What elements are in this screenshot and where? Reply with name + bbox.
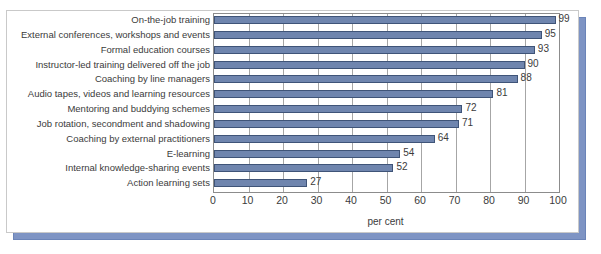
bar-value-label: 71 bbox=[462, 116, 473, 130]
bar-row bbox=[214, 177, 559, 192]
bar bbox=[214, 61, 525, 69]
bar-value-label: 54 bbox=[403, 146, 414, 160]
bar bbox=[214, 46, 535, 54]
chart-card: On-the-job trainingExternal conferences,… bbox=[6, 10, 579, 233]
x-tick-label: 20 bbox=[267, 194, 297, 207]
bar bbox=[214, 105, 462, 113]
bar-row bbox=[214, 103, 559, 118]
bar-row bbox=[214, 118, 559, 133]
bar-value-label: 93 bbox=[538, 42, 549, 56]
bar-value-label: 90 bbox=[528, 57, 539, 71]
chart-figure: On-the-job trainingExternal conferences,… bbox=[0, 0, 601, 254]
bar-value-label: 81 bbox=[496, 86, 507, 100]
bar bbox=[214, 90, 493, 98]
bar-value-label: 27 bbox=[310, 175, 321, 189]
x-tick-label: 10 bbox=[233, 194, 263, 207]
bar bbox=[214, 150, 400, 158]
category-label: Job rotation, secondment and shadowing bbox=[37, 118, 210, 130]
bar-row bbox=[214, 133, 559, 148]
bar bbox=[214, 164, 393, 172]
x-tick-label: 80 bbox=[474, 194, 504, 207]
category-label: Mentoring and buddying schemes bbox=[67, 103, 210, 115]
bar bbox=[214, 120, 459, 128]
bar-row bbox=[214, 29, 559, 44]
x-tick-label: 40 bbox=[336, 194, 366, 207]
category-label: Action learning sets bbox=[127, 177, 210, 189]
bar-row bbox=[214, 14, 559, 29]
bar bbox=[214, 31, 542, 39]
bar bbox=[214, 16, 556, 24]
bar-row bbox=[214, 59, 559, 74]
x-tick-label: 100 bbox=[543, 194, 573, 207]
category-axis-labels: On-the-job trainingExternal conferences,… bbox=[7, 11, 210, 234]
bar-row bbox=[214, 148, 559, 163]
category-label: Coaching by line managers bbox=[95, 73, 210, 85]
bar bbox=[214, 75, 518, 83]
category-label: Instructor-led training delivered off th… bbox=[35, 59, 210, 71]
category-label: Formal education courses bbox=[101, 44, 210, 56]
x-tick-label: 0 bbox=[198, 194, 228, 207]
bar bbox=[214, 135, 435, 143]
bar-row bbox=[214, 44, 559, 59]
category-label: External conferences, workshops and even… bbox=[21, 29, 210, 41]
x-tick-label: 50 bbox=[371, 194, 401, 207]
category-label: Coaching by external practitioners bbox=[66, 133, 210, 145]
x-tick-label: 60 bbox=[405, 194, 435, 207]
bar-value-label: 52 bbox=[396, 160, 407, 174]
x-axis-title: per cent bbox=[213, 216, 558, 227]
x-tick-label: 30 bbox=[302, 194, 332, 207]
bar-value-label: 88 bbox=[521, 71, 532, 85]
bar-value-label: 99 bbox=[559, 12, 570, 26]
bar-value-label: 95 bbox=[545, 27, 556, 41]
category-label: Internal knowledge-sharing events bbox=[65, 162, 210, 174]
x-tick-label: 90 bbox=[509, 194, 539, 207]
plot-area bbox=[213, 13, 560, 193]
bar-value-label: 64 bbox=[438, 131, 449, 145]
bar-row bbox=[214, 162, 559, 177]
category-label: Audio tapes, videos and learning resourc… bbox=[28, 88, 210, 100]
category-label: On-the-job training bbox=[131, 14, 210, 26]
category-label: E-learning bbox=[167, 148, 210, 160]
x-tick-label: 70 bbox=[440, 194, 470, 207]
bar bbox=[214, 179, 307, 187]
bar-value-label: 72 bbox=[465, 101, 476, 115]
